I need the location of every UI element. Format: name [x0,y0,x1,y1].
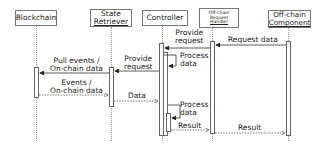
label-events-return: Events / On-chain data [50,79,103,96]
arrow-process-data-2 [168,105,180,118]
label-result-1: Result [178,122,201,130]
label-request-data: Request data [228,36,278,44]
label-process-data-1: Process data [180,52,208,69]
label-provide-request-2: Provide request [124,55,153,72]
label-provide-request-1: Provide request [175,29,204,46]
label-process-data-2: Process data [180,101,208,118]
label-result-2: Result [238,124,261,132]
label-data-return: Data [128,92,146,100]
label-pull-events: Pull events / On-chain data [50,57,103,74]
arrow-process-data-1 [164,55,176,66]
message-arrows [0,0,323,148]
